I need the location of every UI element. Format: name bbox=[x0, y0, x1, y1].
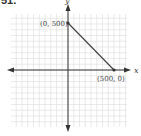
y-axis-up-arrow-icon bbox=[66, 4, 71, 11]
y-axis-down-arrow-icon bbox=[66, 125, 71, 132]
point-b-label: (500, 0) bbox=[97, 75, 125, 83]
point-b bbox=[112, 68, 115, 71]
coordinate-plane: (0, 500) (500, 0) x y bbox=[0, 0, 141, 136]
x-axis-label: x bbox=[134, 66, 139, 75]
x-axis-left-arrow-icon bbox=[7, 68, 14, 73]
x-axis-right-arrow-icon bbox=[124, 68, 131, 73]
y-axis-label: y bbox=[64, 0, 70, 5]
point-a-label: (0, 500) bbox=[40, 20, 68, 28]
